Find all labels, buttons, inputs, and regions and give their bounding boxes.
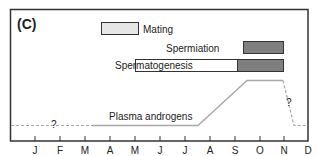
month-label: J xyxy=(33,145,38,156)
mating-swatch xyxy=(102,23,139,35)
month-label: D xyxy=(304,145,311,156)
x-axis-labels: J F M A M J J A S O N D xyxy=(33,145,312,156)
month-label: N xyxy=(280,145,287,156)
month-label: A xyxy=(107,145,114,156)
month-label: J xyxy=(183,145,188,156)
mating-label: Mating xyxy=(143,24,173,35)
month-label: O xyxy=(256,145,264,156)
month-label: J xyxy=(158,145,163,156)
month-label: S xyxy=(232,145,239,156)
androgens-label: Plasma androgens xyxy=(109,111,192,122)
question-mark-2: ? xyxy=(286,97,292,108)
spermatogenesis-bar-dark xyxy=(238,60,284,72)
spermatogenesis-label: Spermatogenesis xyxy=(115,60,193,71)
spermiation-label: Spermiation xyxy=(166,43,219,54)
spermiation-bar xyxy=(244,42,284,54)
month-label: M xyxy=(131,145,139,156)
panel-label: (C) xyxy=(17,16,36,32)
chart-figure: (C) Mating Spermiation Spermatogenesis P… xyxy=(0,0,318,156)
month-label: F xyxy=(57,145,63,156)
month-label: A xyxy=(207,145,214,156)
question-mark-1: ? xyxy=(51,119,57,130)
month-label: M xyxy=(81,145,89,156)
